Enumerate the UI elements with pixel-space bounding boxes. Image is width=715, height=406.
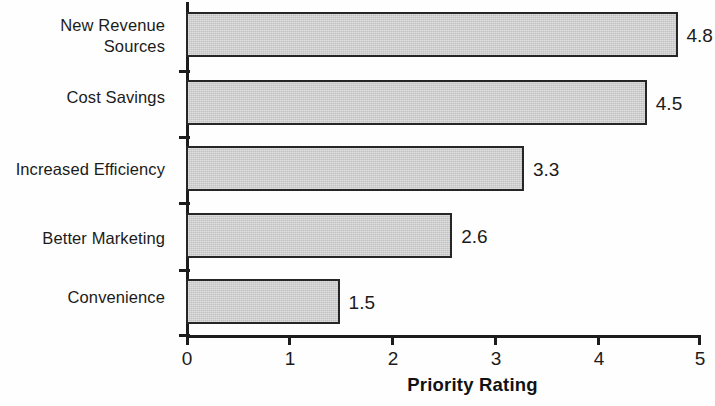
- x-axis-tick-label-2: 2: [373, 348, 413, 370]
- bar-cost-savings: [186, 80, 647, 125]
- x-axis-tick-4: [597, 335, 600, 345]
- bar-value-convenience: 1.5: [349, 293, 375, 312]
- category-label-increased-efficiency: Increased Efficiency: [0, 159, 165, 180]
- y-axis-tick: [179, 70, 190, 73]
- x-axis-title: Priority Rating: [0, 374, 715, 396]
- bar-better-marketing: [186, 213, 452, 258]
- bar-value-better-marketing: 2.6: [461, 227, 487, 246]
- bar-convenience: [186, 279, 340, 324]
- bar-increased-efficiency: [186, 146, 524, 191]
- category-label-convenience: Convenience: [0, 287, 165, 308]
- bar-chart: New Revenue Sources Cost Savings Increas…: [0, 0, 715, 406]
- x-axis-tick-1: [288, 335, 291, 345]
- x-axis-tick-5: [698, 335, 701, 345]
- x-axis-tick-label-0: 0: [167, 348, 207, 370]
- x-axis-tick-3: [494, 335, 497, 345]
- bar-value-increased-efficiency: 3.3: [533, 160, 559, 179]
- x-axis-tick-label-3: 3: [476, 348, 516, 370]
- category-label-new-revenue-sources: New Revenue Sources: [0, 15, 165, 57]
- plot-area: 0 1 2 3 4 5 4.8 4.5 3.3 2.6 1.5: [186, 0, 715, 406]
- x-axis-tick-0: [186, 335, 189, 345]
- category-label-cost-savings: Cost Savings: [0, 87, 165, 108]
- y-axis-tick: [179, 202, 190, 205]
- x-axis-line: [186, 335, 701, 338]
- x-axis-tick-label-4: 4: [579, 348, 619, 370]
- x-axis-tick-label-5: 5: [680, 348, 715, 370]
- bar-value-cost-savings: 4.5: [656, 94, 682, 113]
- y-axis-tick: [179, 269, 190, 272]
- y-axis-tick: [179, 136, 190, 139]
- x-axis-tick-2: [391, 335, 394, 345]
- bar-value-new-revenue-sources: 4.8: [687, 26, 713, 45]
- x-axis-tick-label-1: 1: [270, 348, 310, 370]
- category-label-better-marketing: Better Marketing: [0, 228, 165, 249]
- x-axis-title-text: Priority Rating: [407, 374, 537, 395]
- bar-new-revenue-sources: [186, 12, 678, 57]
